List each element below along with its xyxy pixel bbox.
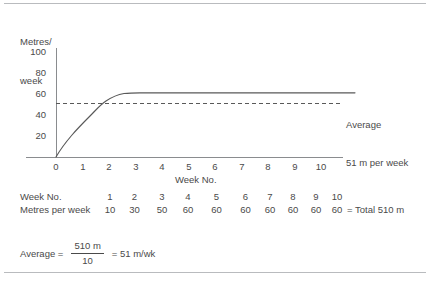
x-tick-label-6: 6: [205, 161, 225, 172]
series-metres-per-week-line: [56, 93, 355, 157]
x-tick-label-8: 8: [258, 161, 278, 172]
cell-metres-9: 60: [305, 204, 327, 217]
cell-week-5: 5: [201, 191, 232, 204]
cell-week-3: 3: [149, 191, 175, 204]
x-tick-label-5: 5: [179, 161, 199, 172]
formula-numerator: 510 m: [71, 240, 103, 253]
x-tick-label-10: 10: [311, 161, 331, 172]
x-tick-label-4: 4: [152, 161, 172, 172]
cell-metres-2: 30: [120, 204, 149, 217]
cell-metres-1: 10: [100, 204, 120, 217]
cell-total-spacer: [347, 191, 404, 204]
cell-metres-8: 60: [281, 204, 305, 217]
x-tick-label-1: 1: [73, 161, 93, 172]
weeks-metres-table: Week No. 1 2 3 4 5 6 7 8 9 10 Metres per…: [20, 191, 404, 216]
cell-metres-7: 60: [259, 204, 281, 217]
data-table: Week No. 1 2 3 4 5 6 7 8 9 10 Metres per…: [20, 191, 404, 216]
cell-week-2: 2: [120, 191, 149, 204]
cell-week-9: 9: [305, 191, 327, 204]
x-tick-label-2: 2: [99, 161, 119, 172]
x-tick-label-0: 0: [46, 161, 66, 172]
cell-week-10: 10: [327, 191, 347, 204]
x-tick-label-3: 3: [126, 161, 146, 172]
formula-result: = 51 m/wk: [112, 248, 156, 259]
cell-total-label: = Total 510 m: [347, 204, 404, 217]
formula-label: Average =: [20, 248, 63, 259]
cell-week-1: 1: [100, 191, 120, 204]
table-row-metres-per-week: Metres per week 10 30 50 60 60 60 60 60 …: [20, 204, 404, 217]
x-tick-label-7: 7: [232, 161, 252, 172]
average-formula: Average = 510 m 10 = 51 m/wk: [20, 240, 155, 267]
row-label-week-no: Week No.: [20, 191, 100, 204]
cell-week-4: 4: [175, 191, 201, 204]
cell-week-8: 8: [281, 191, 305, 204]
figure-container: Metres/ week 100 80 60 40 20 0 1 2 3 4 5…: [0, 0, 430, 281]
cell-metres-6: 60: [232, 204, 259, 217]
table-row-week-no: Week No. 1 2 3 4 5 6 7 8 9 10: [20, 191, 404, 204]
cell-metres-5: 60: [201, 204, 232, 217]
cell-metres-4: 60: [175, 204, 201, 217]
cell-metres-10: 60: [327, 204, 347, 217]
row-label-metres-per-week: Metres per week: [20, 204, 100, 217]
cell-week-7: 7: [259, 191, 281, 204]
formula-fraction: 510 m 10: [71, 240, 103, 267]
average-annotation-line2: 51 m per week: [346, 157, 408, 170]
x-axis-title: Week No.: [175, 173, 217, 186]
average-annotation-line1: Average: [346, 119, 408, 132]
cell-metres-3: 50: [149, 204, 175, 217]
cell-week-6: 6: [232, 191, 259, 204]
x-tick-label-9: 9: [285, 161, 305, 172]
formula-denominator: 10: [79, 254, 96, 267]
average-annotation: Average 51 m per week: [346, 94, 408, 194]
